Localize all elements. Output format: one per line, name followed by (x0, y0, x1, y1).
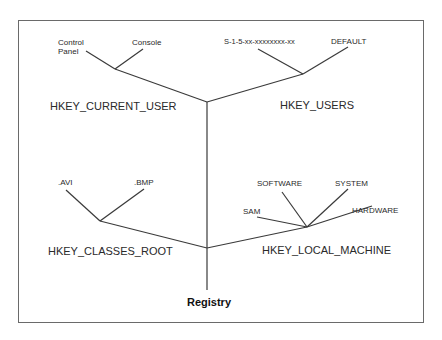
leaf-system (307, 189, 348, 227)
label-sam: SAM (243, 207, 260, 216)
label-sid: S-1-5-xx-xxxxxxxx-xx (224, 37, 295, 46)
label-control-panel: Control Panel (58, 38, 84, 56)
hive-hkey-classes-root: HKEY_CLASSES_ROOT (48, 245, 173, 257)
leaf-control-panel (86, 51, 115, 69)
leaf-avi (66, 190, 100, 221)
label-avi: .AVI (58, 178, 73, 187)
branch-hkcr (100, 221, 207, 248)
leaf-console (115, 49, 143, 69)
label-hardware: HARDWARE (352, 206, 398, 215)
label-control-panel-line2: Panel (58, 47, 84, 56)
label-system: SYSTEM (335, 179, 368, 188)
root-registry-label: Registry (187, 296, 231, 308)
leaf-software (282, 192, 307, 227)
leaf-sid (258, 49, 303, 74)
branch-hkcu (115, 69, 207, 102)
label-console: Console (132, 38, 161, 47)
hive-hkey-local-machine: HKEY_LOCAL_MACHINE (262, 244, 391, 256)
label-software: SOFTWARE (257, 179, 302, 188)
hive-hkey-current-user: HKEY_CURRENT_USER (50, 100, 177, 112)
leaf-bmp (100, 189, 144, 221)
branch-hku (207, 74, 303, 102)
leaf-sam (257, 217, 307, 227)
label-default: DEFAULT (331, 37, 366, 46)
hive-hkey-users: HKEY_USERS (280, 99, 354, 111)
label-bmp: .BMP (134, 178, 154, 187)
leaf-default (303, 47, 348, 74)
label-control-panel-line1: Control (58, 38, 84, 47)
